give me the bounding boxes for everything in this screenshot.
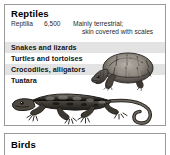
list-item: Tuatara xyxy=(5,75,165,86)
classification-page: Reptiles Reptilia 6,500 Mainly terrestri… xyxy=(0,0,170,155)
reptiles-card: Reptiles Reptilia 6,500 Mainly terrestri… xyxy=(4,4,166,126)
description-line-2: skin covered with scales xyxy=(73,28,165,36)
list-item: Turtles and tortoises xyxy=(5,53,165,64)
reptiles-metadata-row: Reptilia 6,500 Mainly terrestrial; skin … xyxy=(11,20,163,38)
description-line-1: Mainly terrestrial; xyxy=(73,20,123,27)
lizard-illustration xyxy=(11,83,163,125)
page-title: Reptiles xyxy=(11,9,49,19)
description: Mainly terrestrial; skin covered with sc… xyxy=(73,20,165,37)
group-label-snakes-and-lizards: Snakes and lizards xyxy=(11,43,77,52)
group-label-crocodiles-alligators: Crocodiles, alligators xyxy=(11,65,85,74)
birds-card: Birds xyxy=(4,133,166,155)
scientific-name: Reptilia xyxy=(11,20,33,28)
group-label-tuatara: Tuatara xyxy=(11,76,37,85)
group-label-turtles-and-tortoises: Turtles and tortoises xyxy=(11,54,83,63)
list-item: Snakes and lizards xyxy=(5,42,165,53)
reptile-group-list: Snakes and lizards Turtles and tortoises… xyxy=(5,42,165,86)
birds-title: Birds xyxy=(11,140,36,150)
species-count: 6,500 xyxy=(44,20,61,28)
list-item: Crocodiles, alligators xyxy=(5,64,165,75)
